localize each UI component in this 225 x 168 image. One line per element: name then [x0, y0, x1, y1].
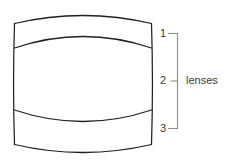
lens-diagram: 1 2 3 lenses	[0, 0, 225, 168]
upper-divider-arc	[15, 37, 152, 49]
region-label-2: 2	[160, 74, 166, 86]
lenses-bracket	[168, 34, 178, 129]
diagram-canvas: 1 2 3 lenses	[0, 0, 225, 168]
left-side-edge	[14, 24, 15, 145]
outer-bottom-arc	[15, 145, 152, 153]
lower-divider-arc	[15, 110, 152, 122]
outer-top-arc	[15, 16, 152, 24]
lenses-bracket-label: lenses	[186, 74, 218, 86]
inner-divider-arcs	[15, 37, 152, 122]
region-label-3: 3	[160, 122, 166, 134]
region-label-1: 1	[160, 27, 166, 39]
right-side-edge	[152, 24, 153, 145]
